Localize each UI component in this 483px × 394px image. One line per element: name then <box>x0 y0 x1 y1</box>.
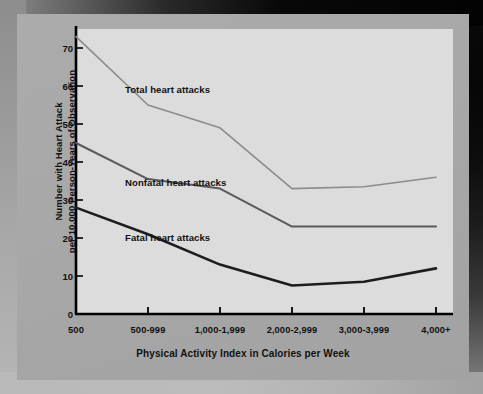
screenshot-root: 010203040506070 500500-9991,000-1,9992,0… <box>0 0 483 394</box>
plot-area: 010203040506070 500500-9991,000-1,9992,0… <box>17 14 469 380</box>
x-tick-label-3: 2,000-2,999 <box>267 325 318 335</box>
chart-figure-panel: 010203040506070 500500-9991,000-1,9992,0… <box>17 14 469 380</box>
series-label-0: Total heart attacks <box>125 84 210 95</box>
x-tick-label-5: 4,000+ <box>421 325 450 335</box>
x-tick-label-1: 500-999 <box>131 325 166 335</box>
y-axis-title: Number with Heart Attack per 10,000 Pers… <box>53 37 78 287</box>
x-tick-label-0: 500 <box>68 325 84 335</box>
x-axis-title: Physical Activity Index in Calories per … <box>17 348 469 359</box>
y-axis-title-line-2: per 10,000 Person-Years of Observation <box>65 37 78 287</box>
series-label-2: Fatal heart attacks <box>125 232 210 243</box>
x-tick-label-2: 1,000-1,999 <box>195 325 246 335</box>
x-tick-label-4: 3,000-3,999 <box>339 325 390 335</box>
y-tick-label-0: 0 <box>47 309 73 320</box>
series-label-1: Nonfatal heart attacks <box>125 177 226 188</box>
y-axis-title-line-1: Number with Heart Attack <box>53 37 66 287</box>
